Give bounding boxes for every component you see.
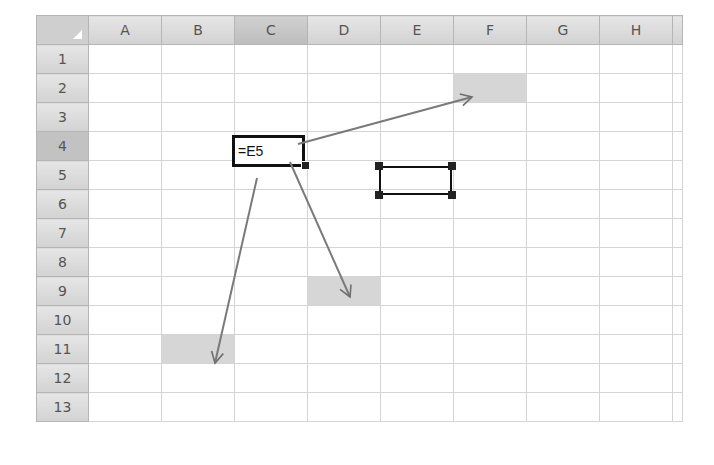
cell-partial-6[interactable] [673, 190, 683, 219]
cell-a11[interactable] [89, 335, 162, 364]
cell-b7[interactable] [162, 219, 235, 248]
cell-d2[interactable] [308, 74, 381, 103]
column-header-g[interactable]: G [527, 16, 600, 45]
spreadsheet-grid[interactable]: A B C D E F G H 12345678910111213 [36, 15, 683, 422]
cell-d4[interactable] [308, 132, 381, 161]
cell-partial-12[interactable] [673, 364, 683, 393]
cell-c12[interactable] [235, 364, 308, 393]
cell-e13[interactable] [381, 393, 454, 422]
row-header-13[interactable]: 13 [37, 393, 89, 422]
cell-g8[interactable] [527, 248, 600, 277]
cell-f7[interactable] [454, 219, 527, 248]
cell-b12[interactable] [162, 364, 235, 393]
cell-a9[interactable] [89, 277, 162, 306]
cell-c2[interactable] [235, 74, 308, 103]
cell-d3[interactable] [308, 103, 381, 132]
cell-f13[interactable] [454, 393, 527, 422]
cell-partial-4[interactable] [673, 132, 683, 161]
cell-h12[interactable] [600, 364, 673, 393]
cell-c11[interactable] [235, 335, 308, 364]
row-header-1[interactable]: 1 [37, 45, 89, 74]
cell-f12[interactable] [454, 364, 527, 393]
cell-a10[interactable] [89, 306, 162, 335]
resize-handle-bottom-left-icon[interactable] [375, 191, 383, 199]
cell-partial-3[interactable] [673, 103, 683, 132]
cell-f9[interactable] [454, 277, 527, 306]
cell-d8[interactable] [308, 248, 381, 277]
cell-b8[interactable] [162, 248, 235, 277]
cell-partial-8[interactable] [673, 248, 683, 277]
cell-partial-11[interactable] [673, 335, 683, 364]
cell-d7[interactable] [308, 219, 381, 248]
cell-e2[interactable] [381, 74, 454, 103]
cell-b5[interactable] [162, 161, 235, 190]
cell-f1[interactable] [454, 45, 527, 74]
cell-f2[interactable] [454, 74, 527, 103]
column-header-e[interactable]: E [381, 16, 454, 45]
cell-partial-5[interactable] [673, 161, 683, 190]
cell-e8[interactable] [381, 248, 454, 277]
row-header-6[interactable]: 6 [37, 190, 89, 219]
row-header-8[interactable]: 8 [37, 248, 89, 277]
cell-h10[interactable] [600, 306, 673, 335]
cell-h1[interactable] [600, 45, 673, 74]
column-header-f[interactable]: F [454, 16, 527, 45]
cell-a8[interactable] [89, 248, 162, 277]
cell-partial-1[interactable] [673, 45, 683, 74]
fill-handle[interactable] [301, 161, 310, 170]
column-header-partial[interactable] [673, 16, 683, 45]
cell-d11[interactable] [308, 335, 381, 364]
cell-f10[interactable] [454, 306, 527, 335]
row-header-12[interactable]: 12 [37, 364, 89, 393]
cell-h5[interactable] [600, 161, 673, 190]
cell-h11[interactable] [600, 335, 673, 364]
row-header-11[interactable]: 11 [37, 335, 89, 364]
cell-f5[interactable] [454, 161, 527, 190]
cell-partial-7[interactable] [673, 219, 683, 248]
cell-b11[interactable] [162, 335, 235, 364]
cell-h8[interactable] [600, 248, 673, 277]
cell-d6[interactable] [308, 190, 381, 219]
cell-a5[interactable] [89, 161, 162, 190]
cell-c1[interactable] [235, 45, 308, 74]
cell-e7[interactable] [381, 219, 454, 248]
cell-h4[interactable] [600, 132, 673, 161]
cell-g1[interactable] [527, 45, 600, 74]
cell-h3[interactable] [600, 103, 673, 132]
cell-a6[interactable] [89, 190, 162, 219]
cell-f6[interactable] [454, 190, 527, 219]
cell-f11[interactable] [454, 335, 527, 364]
row-header-10[interactable]: 10 [37, 306, 89, 335]
cell-h9[interactable] [600, 277, 673, 306]
active-cell-c4[interactable]: =E5 [232, 135, 305, 167]
cell-partial-9[interactable] [673, 277, 683, 306]
cell-e11[interactable] [381, 335, 454, 364]
cell-a1[interactable] [89, 45, 162, 74]
cell-d1[interactable] [308, 45, 381, 74]
cell-a7[interactable] [89, 219, 162, 248]
row-header-5[interactable]: 5 [37, 161, 89, 190]
cell-c9[interactable] [235, 277, 308, 306]
cell-b4[interactable] [162, 132, 235, 161]
cell-partial-13[interactable] [673, 393, 683, 422]
cell-c6[interactable] [235, 190, 308, 219]
row-header-3[interactable]: 3 [37, 103, 89, 132]
cell-f4[interactable] [454, 132, 527, 161]
resize-handle-top-left-icon[interactable] [375, 162, 383, 170]
resize-handle-bottom-right-icon[interactable] [448, 191, 456, 199]
cell-a2[interactable] [89, 74, 162, 103]
cell-g12[interactable] [527, 364, 600, 393]
cell-g6[interactable] [527, 190, 600, 219]
cell-e12[interactable] [381, 364, 454, 393]
cell-g11[interactable] [527, 335, 600, 364]
cell-d12[interactable] [308, 364, 381, 393]
cell-c8[interactable] [235, 248, 308, 277]
cell-a3[interactable] [89, 103, 162, 132]
cell-b10[interactable] [162, 306, 235, 335]
cell-e9[interactable] [381, 277, 454, 306]
cell-b3[interactable] [162, 103, 235, 132]
cell-b13[interactable] [162, 393, 235, 422]
cell-c13[interactable] [235, 393, 308, 422]
cell-d13[interactable] [308, 393, 381, 422]
cell-partial-10[interactable] [673, 306, 683, 335]
